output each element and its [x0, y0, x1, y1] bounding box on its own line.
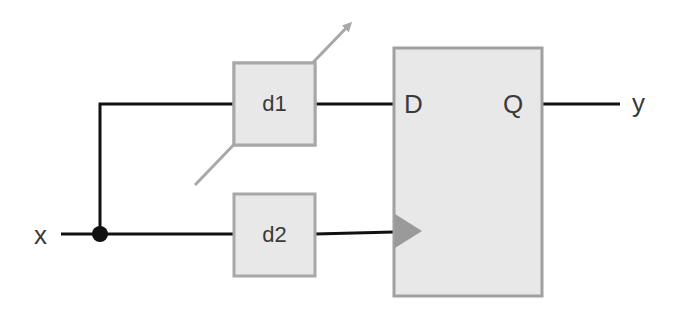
input-label: x [34, 220, 47, 251]
d1-label: d1 [234, 91, 315, 117]
flip-flop-q-label: Q [503, 89, 523, 120]
junction-dot [92, 226, 108, 242]
flip-flop-d-label: D [404, 89, 423, 120]
wire-d2-to-clk [315, 232, 394, 234]
output-label: y [632, 88, 645, 119]
wire-x-to-d1 [100, 104, 234, 234]
flip-flop [394, 48, 542, 296]
d2-label: d2 [234, 222, 315, 248]
circuit-diagram [0, 0, 677, 309]
